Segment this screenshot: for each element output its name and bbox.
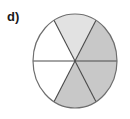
figure-label: d) [7,10,19,23]
figure-panel: d) [0,0,130,119]
pie-chart [31,11,119,110]
pie-chart-svg [31,11,119,110]
